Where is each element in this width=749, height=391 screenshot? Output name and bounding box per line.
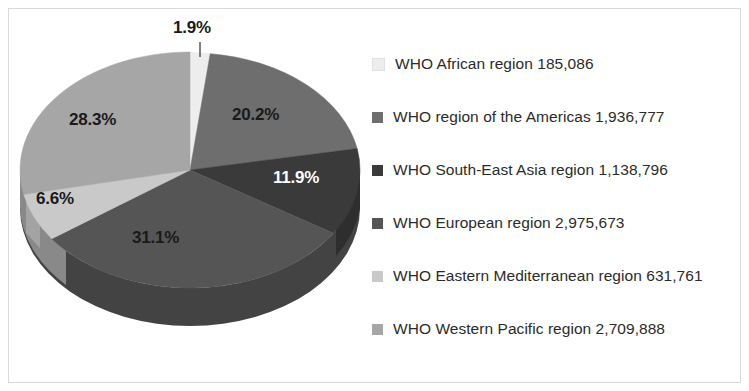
legend-label-african: WHO African region 185,086 xyxy=(395,55,594,73)
legend-swatch-eastern-mediterranean xyxy=(372,271,383,282)
legend-label-western-pacific: WHO Western Pacific region 2,709,888 xyxy=(393,320,665,338)
legend-item-european[interactable]: WHO European region 2,975,673 xyxy=(372,213,625,233)
pie-label-european: 31.1% xyxy=(132,228,179,248)
legend-swatch-western-pacific xyxy=(372,324,383,335)
pie-label-african: 1.9% xyxy=(173,18,211,38)
legend-label-european: WHO European region 2,975,673 xyxy=(393,214,625,232)
legend-item-americas[interactable]: WHO region of the Americas 1,936,777 xyxy=(372,107,664,127)
legend-label-eastern-mediterranean: WHO Eastern Mediterranean region 631,761 xyxy=(393,267,703,285)
legend-item-african[interactable]: WHO African region 185,086 xyxy=(372,54,594,74)
legend-item-south-east-asia[interactable]: WHO South-East Asia region 1,138,796 xyxy=(372,160,668,180)
legend-item-eastern-mediterranean[interactable]: WHO Eastern Mediterranean region 631,761 xyxy=(372,266,703,286)
legend-swatch-european xyxy=(372,218,383,229)
legend-label-americas: WHO region of the Americas 1,936,777 xyxy=(393,108,664,126)
pie-label-south-east-asia: 11.9% xyxy=(273,168,319,188)
legend-swatch-americas xyxy=(372,112,383,123)
pie-label-western-pacific: 28.3% xyxy=(69,110,116,130)
pie-plot-area: 1.9% 20.2% 11.9% 31.1% 6.6% 28.3% xyxy=(10,20,370,350)
pie-chart-figure: 1.9% 20.2% 11.9% 31.1% 6.6% 28.3% WHO Af… xyxy=(0,0,749,391)
legend-item-western-pacific[interactable]: WHO Western Pacific region 2,709,888 xyxy=(372,319,665,339)
legend-label-south-east-asia: WHO South-East Asia region 1,138,796 xyxy=(393,161,668,179)
pie-label-americas: 20.2% xyxy=(232,105,279,125)
legend-swatch-african xyxy=(372,58,385,71)
pie-label-eastern-mediterranean: 6.6% xyxy=(36,189,74,209)
legend-swatch-south-east-asia xyxy=(372,165,383,176)
chart-legend: WHO African region 185,086 WHO region of… xyxy=(372,46,732,346)
